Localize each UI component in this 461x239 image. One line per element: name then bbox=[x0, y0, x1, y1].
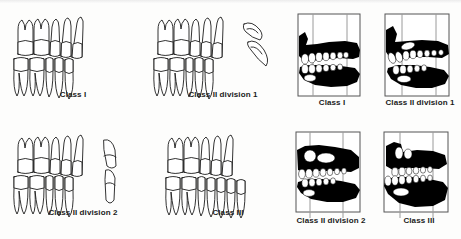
profile-silhouette bbox=[293, 130, 369, 218]
line-drawing-class-ii-division-2: Class II division 2 bbox=[8, 126, 158, 230]
caption-photo-class-iii: Class III bbox=[381, 216, 457, 225]
caption-photo-class-i: Class I bbox=[295, 98, 369, 107]
line-drawing-class-ii-division-1: Class II division 1 bbox=[148, 8, 298, 112]
separate-incisor bbox=[243, 23, 267, 66]
scan-artifact bbox=[0, 0, 461, 3]
malocclusion-classification-figure: Class I bbox=[0, 0, 461, 239]
separate-incisor bbox=[104, 140, 116, 203]
teeth-line-drawing bbox=[158, 126, 298, 218]
teeth-line-drawing bbox=[148, 8, 298, 100]
profile-silhouette bbox=[381, 130, 457, 218]
silhouette-panel-class-ii-division-2: Class II division 2 bbox=[293, 130, 369, 234]
silhouette-panel-class-iii: Class III bbox=[381, 130, 457, 234]
profile-silhouette bbox=[295, 12, 369, 100]
profile-silhouette bbox=[382, 12, 458, 100]
teeth-line-drawing bbox=[8, 8, 138, 100]
caption-line-class-i: Class I bbox=[8, 90, 138, 99]
silhouette-panel-class-ii-division-1: Class II division 1 bbox=[382, 12, 458, 116]
caption-line-class-ii-division-2: Class II division 2 bbox=[8, 208, 158, 217]
caption-line-class-ii-division-1: Class II division 1 bbox=[148, 90, 298, 99]
line-drawing-class-i: Class I bbox=[8, 8, 138, 112]
caption-line-class-iii: Class III bbox=[158, 208, 298, 217]
teeth-line-drawing bbox=[8, 126, 158, 218]
line-drawing-class-iii: Class III bbox=[158, 126, 298, 230]
caption-photo-class-ii-division-1: Class II division 1 bbox=[382, 98, 458, 107]
silhouette-panel-class-i: Class I bbox=[295, 12, 369, 116]
caption-photo-class-ii-division-2: Class II division 2 bbox=[293, 216, 369, 225]
